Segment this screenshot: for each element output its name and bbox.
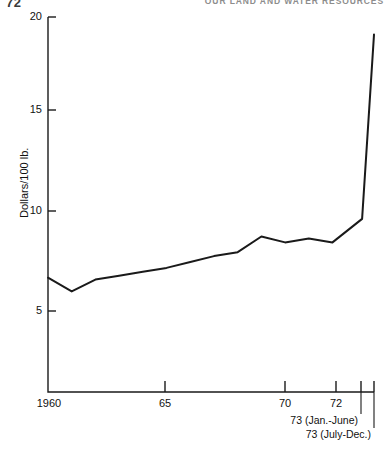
- data-series-price: [48, 35, 374, 292]
- annotation-73-jan-june: 73 (Jan.-June): [236, 414, 358, 426]
- chart-plot-area: [0, 0, 390, 449]
- annotation-73-july-dec: 73 (July-Dec.): [249, 428, 371, 440]
- y-tick-label-5: 5: [16, 304, 42, 316]
- line-chart-figure: 20 15 10 5 Dollars/100 lb. 1960 65 70 72…: [0, 0, 390, 449]
- chart-axes: [48, 17, 374, 392]
- x-tick-label-70: 70: [268, 397, 302, 409]
- y-tick-label-20: 20: [16, 10, 42, 22]
- x-tick-label-72: 72: [319, 397, 353, 409]
- x-tick-label-1960: 1960: [28, 397, 70, 409]
- x-tick-label-65: 65: [148, 397, 182, 409]
- y-axis-title: Dollars/100 lb.: [18, 148, 30, 218]
- y-tick-label-15: 15: [16, 103, 42, 115]
